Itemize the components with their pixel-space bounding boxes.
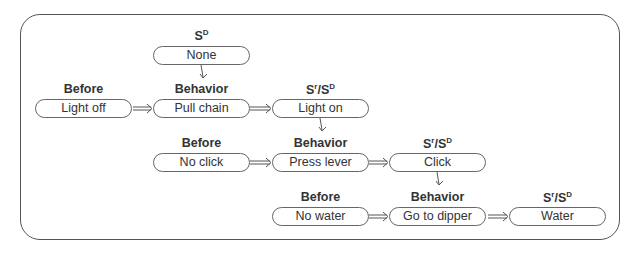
double-arrow-icon xyxy=(133,104,271,113)
double-arrow-icon xyxy=(369,212,508,221)
double-arrow-icon xyxy=(250,158,388,167)
down-arrow-icon xyxy=(200,65,443,185)
connector-arrows xyxy=(0,0,635,254)
